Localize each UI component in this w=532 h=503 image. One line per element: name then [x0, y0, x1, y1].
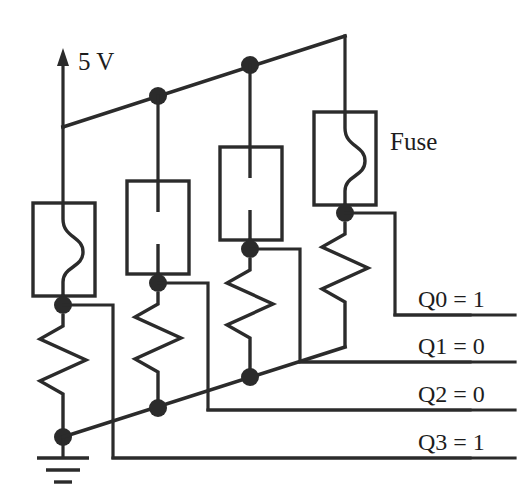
output-label-q2: Q2 = 0: [418, 381, 485, 407]
supply-arrow-group: [57, 48, 69, 127]
supply-voltage-label: 5 V: [78, 48, 114, 75]
ground-symbol-group: [37, 437, 89, 482]
output-label-q0: Q0 = 1: [418, 286, 485, 312]
fuse-annotation-label: Fuse: [390, 128, 437, 155]
output-label-q1: Q1 = 0: [418, 333, 485, 359]
col0-resistor: [40, 314, 86, 437]
col1-ground-node: [149, 399, 167, 417]
col2-ground-node: [241, 368, 259, 386]
col0-output-tap-to-q3: [63, 305, 470, 458]
schematic-canvas: 5 V Fuse Q0 = 1 Q1 = 0 Q2 = 0 Q3 = 1: [0, 0, 532, 503]
col1-resistor: [135, 292, 181, 408]
supply-arrow-head: [57, 48, 69, 66]
circuit-schematic: 5 V Fuse Q0 = 1 Q1 = 0 Q2 = 0 Q3 = 1: [0, 0, 532, 503]
col2-resistor: [227, 258, 273, 377]
output-label-q3: Q3 = 1: [418, 429, 485, 455]
col3-resistor: [322, 222, 368, 347]
